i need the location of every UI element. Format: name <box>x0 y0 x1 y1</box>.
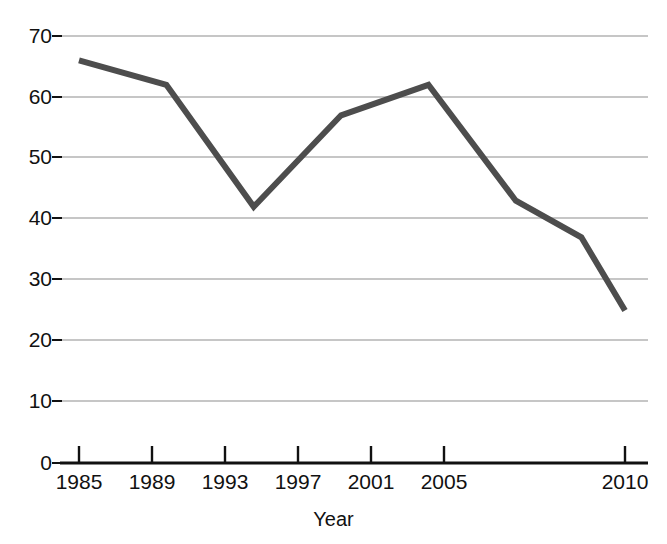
x-axis-label-2001: 2001 <box>348 471 395 492</box>
data-series-line <box>79 60 625 310</box>
x-axis-label-2005: 2005 <box>421 471 468 492</box>
y-axis-labels: 70 60 50 40 30 20 10 0 <box>0 0 52 544</box>
x-axis-label-2010: 2010 <box>602 471 649 492</box>
y-axis-label-10: 10 <box>6 390 52 411</box>
x-axis-ticks <box>79 446 625 462</box>
y-axis-label-40: 40 <box>6 207 52 228</box>
y-axis-ticks <box>52 36 62 463</box>
x-axis-label-1993: 1993 <box>202 471 249 492</box>
x-axis-label-1997: 1997 <box>275 471 322 492</box>
plot-area <box>0 0 667 544</box>
gridlines <box>60 36 648 401</box>
y-axis-label-50: 50 <box>6 146 52 167</box>
y-axis-label-60: 60 <box>6 86 52 107</box>
x-axis-label-1985: 1985 <box>56 471 103 492</box>
x-axis-label-1989: 1989 <box>129 471 176 492</box>
x-axis-title: Year <box>0 508 667 530</box>
line-chart: 70 60 50 40 30 20 10 0 1985 1989 1993 19… <box>0 0 667 544</box>
y-axis-label-0: 0 <box>6 452 52 473</box>
y-axis-label-30: 30 <box>6 268 52 289</box>
y-axis-label-70: 70 <box>6 25 52 46</box>
y-axis-label-20: 20 <box>6 329 52 350</box>
